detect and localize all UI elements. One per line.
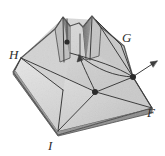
vertex-label-f: F [147,106,155,119]
vertex-label-g: G [122,31,131,44]
direction-arrow-right-head [150,61,157,67]
vertex-label-h: H [9,48,18,61]
fold-node-right [130,74,136,80]
vertex-label-i: I [48,139,52,152]
fold-node-top [64,39,69,44]
fold-node-center [92,89,98,95]
origami-figure-container: H G F I [0,0,165,156]
origami-figure-svg [0,0,165,156]
